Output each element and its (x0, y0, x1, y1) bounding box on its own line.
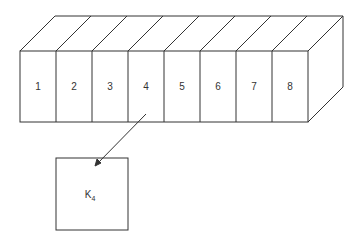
detail-box (56, 158, 128, 230)
detail-label-subscript: 4 (91, 195, 95, 202)
slice-label-5: 5 (179, 81, 185, 92)
slice-label-7: 7 (251, 81, 257, 92)
slice-label-2: 2 (71, 81, 77, 92)
slice-diagram: 1 2 3 4 5 6 7 8 K4 (0, 0, 355, 244)
block-right-face (308, 16, 343, 122)
arrow-head-icon (95, 159, 101, 166)
slice-label-1: 1 (35, 81, 41, 92)
slice-dividers (56, 16, 307, 122)
detail-box-label: K4 (85, 189, 96, 202)
slice-label-6: 6 (215, 81, 221, 92)
slice-label-8: 8 (287, 81, 293, 92)
slice-label-4: 4 (143, 81, 149, 92)
block-3d (20, 16, 343, 122)
slice-label-3: 3 (107, 81, 113, 92)
